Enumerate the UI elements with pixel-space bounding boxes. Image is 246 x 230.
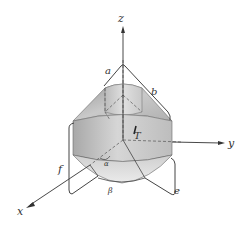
label-e: e	[174, 185, 180, 196]
label-a: a	[105, 65, 111, 76]
label-f: f	[57, 163, 64, 176]
z-axis-label: z	[117, 12, 124, 25]
label-beta: β	[107, 186, 113, 195]
x-axis-label: x	[17, 205, 24, 218]
label-alpha: α	[104, 160, 109, 168]
y-axis-label: y	[227, 137, 235, 150]
label-b: b	[151, 86, 157, 97]
inner-sphere-surface	[105, 84, 142, 115]
outer-sphere-band	[73, 115, 172, 162]
diagram-canvas: z y x a b f e T α β	[0, 0, 246, 230]
